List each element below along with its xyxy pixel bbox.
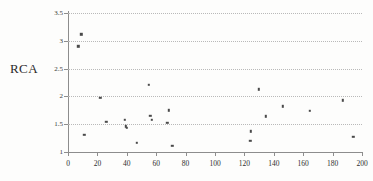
x-tick-mark — [186, 152, 187, 156]
scatter-point — [126, 126, 128, 128]
x-tick-label: 180 — [327, 159, 338, 168]
y-tick-mark — [64, 124, 68, 125]
plot-area: 11.522.533.5 020406080100120140160180200 — [68, 13, 362, 152]
x-tick-mark — [362, 152, 363, 156]
x-tick-label: 200 — [356, 159, 367, 168]
scatter-point — [136, 142, 138, 144]
scatter-point — [105, 121, 107, 123]
y-axis-line — [68, 11, 69, 154]
gridline-y — [68, 41, 362, 42]
y-tick-label: 2.5 — [54, 65, 63, 73]
scatter-point — [250, 130, 252, 132]
y-tick-label: 3 — [60, 37, 64, 45]
gridline-y — [68, 96, 362, 97]
x-tick-label: 40 — [123, 159, 131, 168]
x-tick-mark — [244, 152, 245, 156]
x-tick-mark — [97, 152, 98, 156]
scatter-point — [149, 115, 151, 117]
x-tick-label: 0 — [66, 159, 70, 168]
scatter-point — [77, 45, 79, 47]
scatter-point — [80, 33, 82, 35]
scatter-point — [258, 88, 260, 90]
y-tick-label: 1.5 — [54, 120, 63, 128]
y-tick-mark — [64, 13, 68, 14]
x-tick-label: 80 — [182, 159, 190, 168]
y-tick-mark — [64, 96, 68, 97]
y-tick-label: 3.5 — [54, 9, 63, 17]
gridline-y — [68, 69, 362, 70]
x-tick-mark — [68, 152, 69, 156]
scatter-point — [151, 119, 153, 121]
x-tick-mark — [333, 152, 334, 156]
gridline-y — [68, 124, 362, 125]
scatter-point — [342, 99, 344, 101]
scatter-point — [352, 136, 354, 138]
y-tick-mark — [64, 41, 68, 42]
x-tick-label: 160 — [298, 159, 309, 168]
x-tick-mark — [215, 152, 216, 156]
scatter-point — [83, 134, 85, 136]
y-tick-mark — [64, 69, 68, 70]
scatter-point — [148, 84, 150, 86]
x-tick-label: 140 — [268, 159, 279, 168]
scatter-point — [171, 145, 173, 147]
scatter-point — [167, 109, 169, 111]
x-tick-mark — [274, 152, 275, 156]
scatter-point — [281, 105, 283, 107]
y-axis-caption: RCA — [10, 61, 54, 77]
x-tick-mark — [156, 152, 157, 156]
scatter-point — [166, 121, 168, 123]
x-tick-label: 20 — [94, 159, 102, 168]
scatter-point — [309, 110, 311, 112]
scatter-point — [123, 119, 125, 121]
figure-scatter-plot: RCA 11.522.533.5 02040608010012014016018… — [0, 0, 373, 181]
x-tick-label: 100 — [209, 159, 220, 168]
scatter-point — [99, 96, 101, 98]
gridline-y — [68, 13, 362, 14]
scatter-point — [249, 140, 251, 142]
x-tick-label: 120 — [239, 159, 250, 168]
x-tick-mark — [303, 152, 304, 156]
scatter-point — [265, 115, 267, 117]
y-tick-label: 2 — [60, 92, 64, 100]
x-tick-mark — [127, 152, 128, 156]
y-tick-label: 1 — [60, 148, 64, 156]
x-tick-label: 60 — [152, 159, 160, 168]
